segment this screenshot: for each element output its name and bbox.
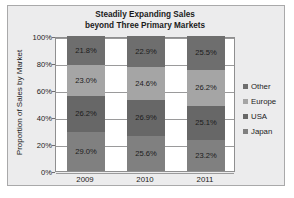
chart-figure: Steadily Expanding Sales beyond Three Pr… xyxy=(0,0,294,198)
plot-area: 21.8%23.0%26.2%29.0%22.9%24.6%26.9%25.6%… xyxy=(55,37,235,172)
legend-label: USA xyxy=(251,112,267,121)
bar-segment[interactable]: 25.1% xyxy=(187,106,225,140)
legend-label: Other xyxy=(251,82,271,91)
bar-segment[interactable]: 25.6% xyxy=(127,136,165,171)
y-axis-tick-label: 60% xyxy=(8,87,52,96)
gridline xyxy=(56,173,234,174)
y-axis-tick-label: 80% xyxy=(8,60,52,69)
bar-segment[interactable]: 26.2% xyxy=(187,70,225,105)
chart-title-line-1: Steadily Expanding Sales xyxy=(40,10,250,21)
bar-segment-label: 23.0% xyxy=(75,77,97,85)
legend-item[interactable]: Other xyxy=(243,79,289,94)
y-axis-tick-mark xyxy=(52,64,55,65)
bar-segment[interactable]: 22.9% xyxy=(127,36,165,67)
chart-title-line-2: beyond Three Primary Markets xyxy=(40,21,250,32)
bar-segment[interactable]: 25.5% xyxy=(187,36,225,70)
x-axis-tick-label: 2009 xyxy=(55,175,115,184)
legend-item[interactable]: Europe xyxy=(243,94,289,109)
x-axis-tick-label: 2010 xyxy=(115,175,175,184)
x-axis-tick-label: 2011 xyxy=(175,175,235,184)
bar-segment-label: 23.2% xyxy=(195,152,217,160)
bar-segment-label: 26.2% xyxy=(195,84,217,92)
bar-stack[interactable]: 21.8%23.0%26.2%29.0% xyxy=(67,36,105,171)
y-axis-tick-label: 0% xyxy=(8,168,52,177)
bar-segment-label: 26.2% xyxy=(75,110,97,118)
legend-item[interactable]: USA xyxy=(243,109,289,124)
chart-legend: OtherEuropeUSAJapan xyxy=(243,79,289,139)
legend-swatch xyxy=(243,114,248,119)
y-axis-tick-mark xyxy=(52,118,55,119)
bar-segment-label: 25.5% xyxy=(195,49,217,57)
legend-item[interactable]: Japan xyxy=(243,124,289,139)
bar-segment[interactable]: 26.2% xyxy=(67,96,105,131)
y-axis-tick-mark xyxy=(52,37,55,38)
y-axis-tick-mark xyxy=(52,91,55,92)
legend-label: Europe xyxy=(251,97,276,106)
bar-stack[interactable]: 25.5%26.2%25.1%23.2% xyxy=(187,36,225,171)
bar-segment[interactable]: 24.6% xyxy=(127,67,165,100)
bar-stack[interactable]: 22.9%24.6%26.9%25.6% xyxy=(127,36,165,171)
bar-segment-label: 29.0% xyxy=(75,148,97,156)
bar-segment-label: 21.8% xyxy=(75,47,97,55)
bar-segment-label: 25.6% xyxy=(135,150,157,158)
legend-label: Japan xyxy=(251,127,272,136)
legend-swatch xyxy=(243,84,248,89)
bar-segment[interactable]: 29.0% xyxy=(67,132,105,171)
chart-title: Steadily Expanding Sales beyond Three Pr… xyxy=(40,10,250,31)
legend-swatch xyxy=(243,129,248,134)
bar-segment-label: 24.6% xyxy=(135,80,157,88)
bar-segment[interactable]: 23.2% xyxy=(187,140,225,171)
bar-segment[interactable]: 23.0% xyxy=(67,65,105,96)
y-axis-tick-mark xyxy=(52,145,55,146)
bar-segment-label: 26.9% xyxy=(135,114,157,122)
y-axis-tick-label: 20% xyxy=(8,141,52,150)
y-axis-tick-label: 100% xyxy=(8,33,52,42)
bar-segment[interactable]: 26.9% xyxy=(127,100,165,136)
bar-segment[interactable]: 21.8% xyxy=(67,36,105,65)
legend-swatch xyxy=(243,99,248,104)
y-axis-tick-mark xyxy=(52,172,55,173)
y-axis-tick-label: 40% xyxy=(8,114,52,123)
bar-segment-label: 25.1% xyxy=(195,119,217,127)
bar-segment-label: 22.9% xyxy=(135,48,157,56)
